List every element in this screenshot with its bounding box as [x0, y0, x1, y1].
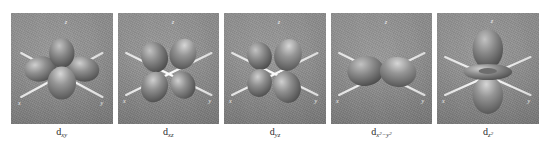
orbital-label-d-z2: dz2 [437, 126, 539, 144]
orbital-label-sub: xz [168, 131, 174, 138]
axis-label-y: y [207, 98, 211, 104]
axis-label-x: x [441, 98, 445, 104]
axis-label-y: y [420, 98, 424, 104]
orbital-label-sub: z2 [488, 131, 493, 138]
orbital-panel-d-x2-y2: x y z [331, 13, 433, 124]
orbital-panel-d-xz: x y z [118, 13, 220, 124]
orbital-render-d-xy: x y z [11, 13, 113, 124]
axis-label-x: x [122, 98, 126, 104]
axis-label-z: z [384, 19, 388, 25]
axis-label-y: y [314, 98, 318, 104]
axis-label-x: x [335, 98, 339, 104]
orbital-render-d-xz: x y z [118, 13, 220, 124]
orbital-lobes [464, 29, 513, 114]
orbital-label-d-yz: dyz [224, 126, 326, 144]
axis-lines [232, 21, 317, 117]
orbital-panel-d-xy: x y z [11, 13, 113, 124]
orbital-label-d-xy: dxy [11, 126, 113, 144]
orbital-panel-row: x y z x y z [11, 13, 539, 124]
axis-label-z: z [277, 19, 281, 25]
axis-label-y: y [527, 98, 531, 104]
orbital-label-d-xz: dxz [118, 126, 220, 144]
axis-lines [126, 21, 211, 117]
orbital-render-d-z2: x y z [437, 13, 539, 124]
orbital-render-d-x2-y2: x y z [331, 13, 433, 124]
axis-label-x: x [17, 100, 21, 106]
d-orbital-figure: x y z x y z [0, 0, 552, 150]
axis-label-z: z [170, 19, 174, 25]
axis-label-y: y [99, 100, 103, 106]
orbital-label-sub: xy [61, 131, 67, 138]
orbital-label-sub: yz [275, 131, 281, 138]
orbital-label-d-x2-y2: dx2−y2 [331, 126, 433, 144]
axis-label-z: z [490, 18, 494, 24]
orbital-render-d-yz: x y z [224, 13, 326, 124]
orbital-panel-d-yz: x y z [224, 13, 326, 124]
axis-label-z: z [64, 19, 68, 25]
axis-label-x: x [228, 98, 232, 104]
orbital-label-sub: x2−y2 [376, 131, 392, 138]
orbital-label-row: dxy dxz dyz dx2−y2 dz2 [11, 126, 539, 144]
orbital-panel-d-z2: x y z [437, 13, 539, 124]
